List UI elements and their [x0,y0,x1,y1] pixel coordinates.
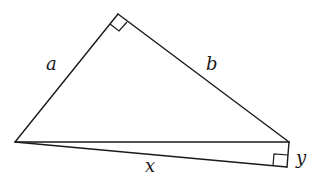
right-angle-marker-top [110,22,127,31]
label-y: y [295,147,307,168]
side-b [118,14,289,142]
label-a: a [46,53,57,74]
side-a [15,14,118,142]
triangle-diagram: a b x y [0,0,321,181]
label-b: b [206,53,218,74]
label-x: x [145,155,155,176]
right-angle-marker-bottom-right [273,154,288,166]
